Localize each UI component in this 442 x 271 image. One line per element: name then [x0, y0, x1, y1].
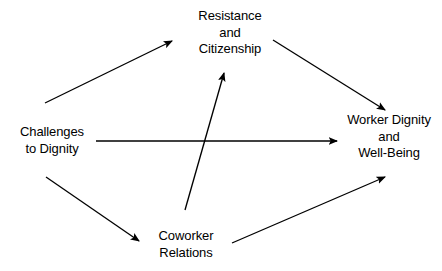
node-coworker-relations: Coworker Relations	[143, 228, 229, 261]
node-resistance-and-citizenship: Resistance and Citizenship	[181, 8, 279, 58]
diagram-canvas: Challenges to Dignity Resistance and Cit…	[0, 0, 442, 271]
edge-challenges-to-resistance	[45, 41, 172, 103]
node-challenges-to-dignity: Challenges to Dignity	[4, 124, 100, 157]
node-worker-dignity-and-well-being: Worker Dignity and Well-Being	[339, 112, 439, 162]
edge-challenges-to-coworker	[46, 177, 139, 241]
edge-coworker-to-worker-dignity	[232, 177, 385, 243]
edge-resistance-to-worker-dignity	[273, 40, 385, 110]
